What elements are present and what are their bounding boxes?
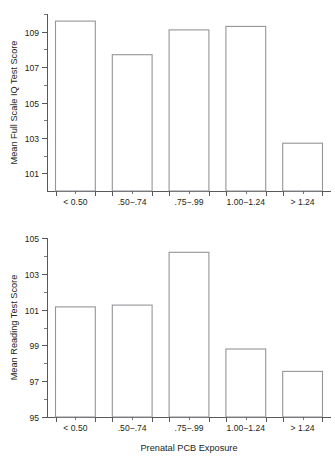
y-tick-label: 105	[25, 234, 40, 244]
bar	[169, 252, 209, 417]
y-tick-label: 99	[29, 341, 39, 351]
x-tick-label: 1.00−1.24	[227, 423, 266, 433]
y-axis-title: Mean Reading Test Score	[9, 275, 19, 381]
x-tick-label: > 1.24	[291, 197, 315, 207]
bar	[56, 21, 96, 191]
bar	[112, 55, 152, 191]
bar	[56, 307, 96, 417]
x-tick-label: < 0.50	[63, 423, 87, 433]
x-tick-label: 1.00−1.24	[227, 197, 266, 207]
bar	[169, 30, 209, 191]
x-axis-title: Prenatal PCB Exposure	[140, 443, 237, 453]
x-tick-label: .50−.74	[118, 423, 147, 433]
y-tick-label: 95	[29, 413, 39, 423]
x-tick-label: .75−.99	[175, 197, 204, 207]
y-axis-title: Mean Full Scale IQ Test Score	[9, 41, 19, 165]
chart-canvas: 101103105107109< 0.50.50−.74.75−.991.00−…	[0, 0, 335, 476]
y-tick-label: 101	[25, 169, 40, 179]
x-tick-label: > 1.24	[291, 423, 315, 433]
figure-two-panel-bar-charts: 101103105107109< 0.50.50−.74.75−.991.00−…	[0, 0, 335, 476]
y-tick-label: 101	[25, 306, 40, 316]
y-tick-label: 103	[25, 270, 40, 280]
y-tick-label: 109	[25, 28, 40, 38]
y-tick-label: 103	[25, 134, 40, 144]
bar	[283, 371, 323, 417]
y-tick-label: 105	[25, 99, 40, 109]
bar	[226, 349, 266, 417]
bar	[283, 143, 323, 191]
x-tick-label: .50−.74	[118, 197, 147, 207]
x-tick-label: < 0.50	[63, 197, 87, 207]
panel-reading: 959799101103105< 0.50.50−.74.75−.991.00−…	[9, 234, 331, 453]
y-tick-label: 97	[29, 377, 39, 387]
x-tick-label: .75−.99	[175, 423, 204, 433]
bar	[226, 26, 266, 191]
y-tick-label: 107	[25, 63, 40, 73]
panel-iq: 101103105107109< 0.50.50−.74.75−.991.00−…	[9, 14, 331, 207]
bar	[112, 305, 152, 417]
